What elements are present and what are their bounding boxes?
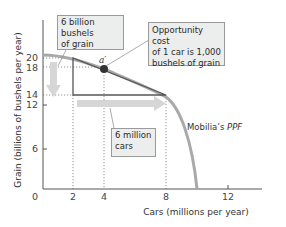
callout-grain-line2: of grain bbox=[61, 39, 120, 50]
ppf-chart: a′ 20 18 14 12 6 0 2 4 8 12 Cars (millio… bbox=[0, 0, 286, 227]
x-tick-4: 4 bbox=[101, 191, 107, 202]
x-tick-0: 0 bbox=[32, 191, 38, 202]
leader-lines bbox=[58, 40, 149, 128]
callout-cars-line1: 6 million bbox=[115, 130, 152, 141]
y-axis-label: Grain (billions of bushels per year) bbox=[13, 32, 23, 188]
callout-opp-line1: Opportunity cost bbox=[152, 25, 221, 47]
ppf-label: Mobilia’s PPF bbox=[187, 122, 242, 132]
y-tick-12: 12 bbox=[26, 99, 38, 110]
callout-grain: 6 billion bushels of grain bbox=[57, 15, 124, 50]
point-a-prime-label: a′ bbox=[99, 55, 106, 65]
callout-cars: 6 million cars bbox=[111, 128, 156, 157]
guide-lines bbox=[43, 58, 166, 189]
point-a-prime bbox=[100, 65, 108, 73]
ppf-label-italic: PPF bbox=[227, 122, 242, 132]
callout-grain-line1: 6 billion bushels bbox=[61, 17, 120, 39]
y-tick-18: 18 bbox=[26, 62, 38, 73]
x-axis-label: Cars (millions per year) bbox=[143, 207, 249, 217]
x-tick-8: 8 bbox=[163, 191, 169, 202]
x-tick-2: 2 bbox=[70, 191, 76, 202]
ppf-curve bbox=[43, 55, 197, 189]
y-tick-6: 6 bbox=[32, 143, 38, 154]
callout-opportunity-cost: Opportunity cost of 1 car is 1,000 bushe… bbox=[148, 22, 225, 66]
ppf-label-prefix: Mobilia’s bbox=[187, 122, 227, 132]
x-tick-12: 12 bbox=[222, 191, 234, 202]
cars-increase-arrow bbox=[77, 96, 166, 111]
callout-opp-line2: of 1 car is 1,000 bbox=[152, 47, 221, 58]
callout-opp-line3: bushels of grain bbox=[152, 58, 221, 69]
callout-cars-line2: cars bbox=[115, 141, 152, 152]
